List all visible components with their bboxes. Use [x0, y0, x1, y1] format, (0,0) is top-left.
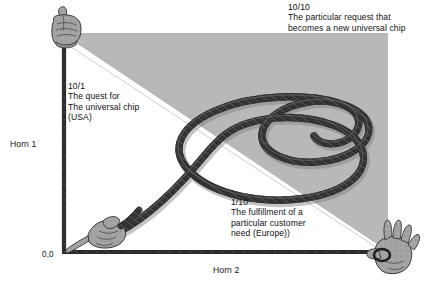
axis-label-horn-2: Horn 2: [213, 265, 239, 275]
label-top-right-10-10: 10/10 The particular request that become…: [288, 2, 406, 33]
label-left-10-1: 10/1 The quest for The universal chip (U…: [68, 81, 139, 123]
diagram-canvas: 10/10 The particular request that become…: [0, 0, 427, 289]
origin-label: 0,0: [42, 250, 54, 260]
label-bottom-1-10: 1/10 The fulfillment of a particular cus…: [231, 197, 306, 239]
diagram-graphics: [0, 0, 427, 289]
axis-label-horn-1: Horn 1: [10, 139, 36, 149]
fist-gripping-vertical-axis-icon: [52, 7, 81, 48]
